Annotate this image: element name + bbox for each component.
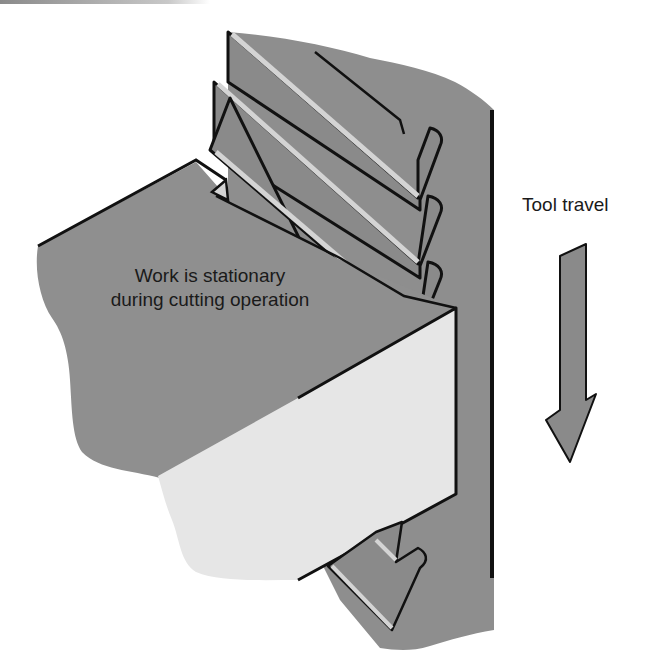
broaching-diagram <box>0 0 656 658</box>
work-label-line-1: Work is stationary <box>70 264 350 288</box>
work-label-line-2: during cutting operation <box>70 288 350 312</box>
tool-travel-label: Tool travel <box>522 193 609 217</box>
tool-travel-arrow-icon <box>546 244 596 462</box>
work-stationary-label: Work is stationary during cutting operat… <box>70 264 350 312</box>
